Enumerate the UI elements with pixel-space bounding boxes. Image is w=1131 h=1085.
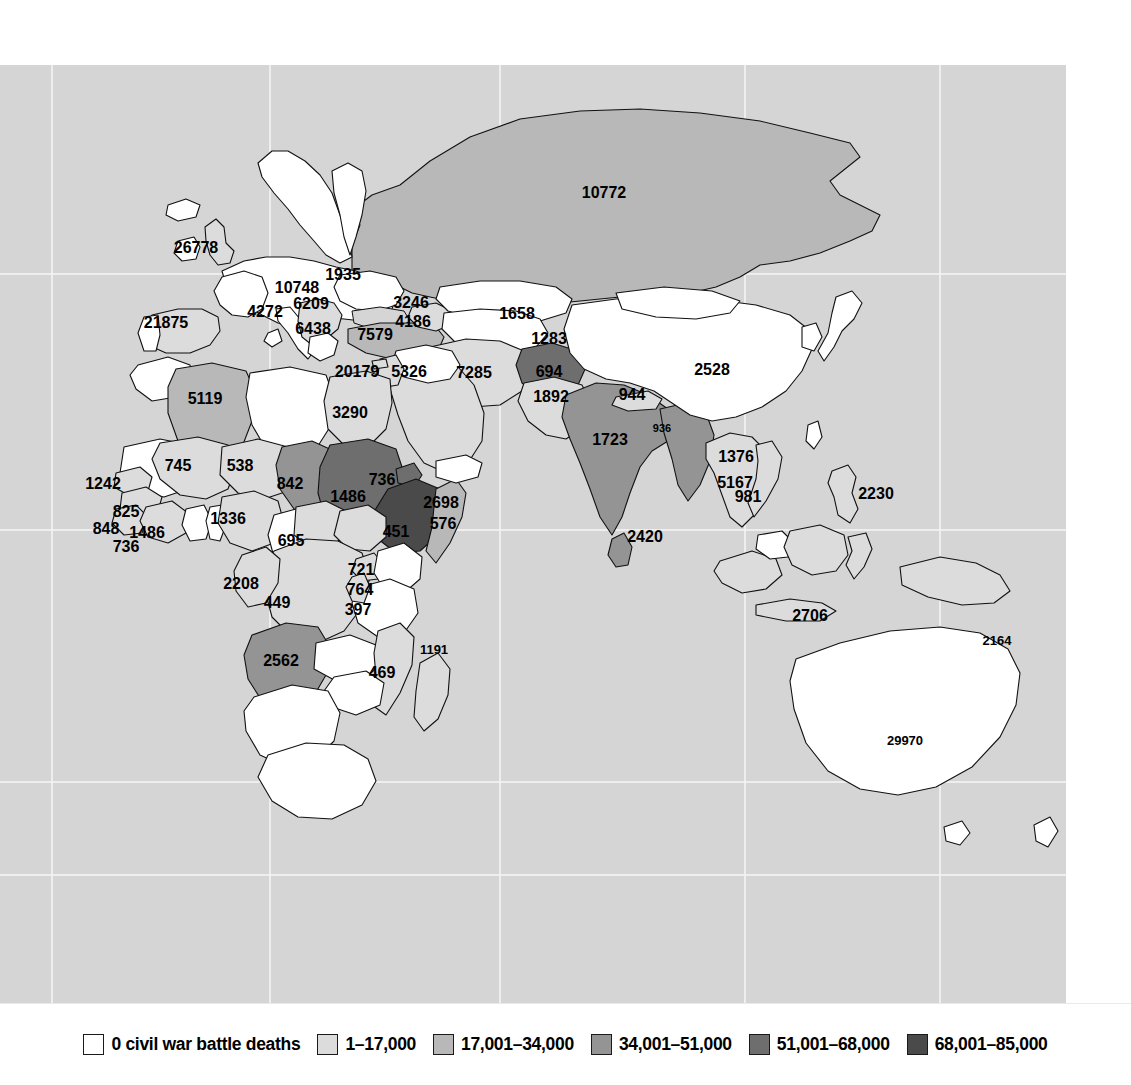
- map-value-label: 5326: [391, 363, 427, 380]
- map-value-label: 4186: [395, 313, 431, 330]
- map-value-label: 721: [348, 561, 375, 578]
- legend-item-5[interactable]: 68,001–85,000: [907, 1034, 1048, 1055]
- map-value-label: 2230: [858, 485, 894, 502]
- map-value-label: 1892: [533, 388, 569, 405]
- map-value-label: 2164: [983, 633, 1013, 648]
- map-value-label: 2420: [627, 528, 663, 545]
- map-value-label: 694: [536, 363, 563, 380]
- world-map-panel: 2677821875107481935620942726438757932464…: [0, 65, 1066, 1003]
- legend-swatch-3: [591, 1034, 612, 1055]
- map-value-label: 397: [345, 601, 372, 618]
- map-value-label: 1658: [499, 305, 535, 322]
- map-value-label: 1723: [592, 431, 628, 448]
- legend-swatch-0: [83, 1034, 104, 1055]
- map-value-label: 451: [383, 523, 410, 540]
- map-value-label: 7579: [357, 326, 393, 343]
- legend-label-3: 34,001–51,000: [619, 1034, 732, 1055]
- map-value-label: 26778: [174, 239, 219, 256]
- map-value-label: 21875: [144, 314, 189, 331]
- map-value-label: 4272: [247, 303, 283, 320]
- map-value-label: 695: [278, 532, 305, 549]
- map-value-label: 3290: [332, 404, 368, 421]
- figure-page: 2677821875107481935620942726438757932464…: [0, 0, 1131, 1085]
- map-value-label: 10748: [275, 279, 320, 296]
- legend-swatch-4: [749, 1034, 770, 1055]
- map-value-label: 1486: [330, 488, 366, 505]
- map-value-label: 6209: [293, 295, 329, 312]
- map-value-label: 10772: [582, 184, 627, 201]
- map-value-label: 7285: [456, 364, 492, 381]
- map-value-label: 469: [369, 664, 396, 681]
- legend-divider: [0, 1003, 1131, 1004]
- legend-label-2: 17,001–34,000: [461, 1034, 574, 1055]
- legend-swatch-2: [433, 1034, 454, 1055]
- map-value-label: 842: [277, 475, 304, 492]
- map-value-label: 6438: [295, 320, 331, 337]
- map-value-label: 825: [113, 503, 140, 520]
- map-value-label: 29970: [887, 733, 923, 748]
- legend-item-4[interactable]: 51,001–68,000: [749, 1034, 890, 1055]
- map-value-label: 1336: [210, 510, 246, 527]
- legend-item-2[interactable]: 17,001–34,000: [433, 1034, 574, 1055]
- map-value-label: 936: [653, 422, 671, 434]
- map-value-label: 1376: [718, 448, 754, 465]
- map-value-label: 2698: [423, 494, 459, 511]
- map-value-label: 1283: [531, 330, 567, 347]
- map-value-label: 538: [227, 457, 254, 474]
- legend-label-0: 0 civil war battle deaths: [111, 1034, 300, 1055]
- map-value-label: 1935: [325, 266, 361, 283]
- map-value-label: 2528: [694, 361, 730, 378]
- legend-item-3[interactable]: 34,001–51,000: [591, 1034, 732, 1055]
- map-value-label: 3246: [393, 294, 429, 311]
- map-value-label: 20179: [335, 363, 380, 380]
- map-value-label: 5119: [188, 390, 223, 407]
- map-value-label: 745: [165, 457, 192, 474]
- map-legend: 0 civil war battle deaths 1–17,000 17,00…: [0, 1003, 1131, 1085]
- legend-item-0[interactable]: 0 civil war battle deaths: [83, 1034, 300, 1055]
- map-value-label: 2208: [223, 575, 259, 592]
- map-value-label: 848: [93, 520, 120, 537]
- map-value-label: 1191: [420, 642, 448, 657]
- map-value-label: 736: [113, 538, 140, 555]
- map-value-label: 449: [264, 594, 291, 611]
- map-value-label: 1242: [85, 475, 121, 492]
- map-value-label: 944: [619, 386, 646, 403]
- map-value-label: 981: [735, 488, 762, 505]
- legend-swatch-1: [317, 1034, 338, 1055]
- legend-label-5: 68,001–85,000: [935, 1034, 1048, 1055]
- map-value-label: 2562: [263, 652, 299, 669]
- world-map-svg: 2677821875107481935620942726438757932464…: [0, 65, 1066, 1003]
- legend-label-1: 1–17,000: [345, 1034, 416, 1055]
- map-value-label: 736: [369, 471, 396, 488]
- map-value-label: 576: [430, 515, 457, 532]
- map-value-label: 764: [347, 581, 374, 598]
- legend-label-4: 51,001–68,000: [777, 1034, 890, 1055]
- legend-swatch-5: [907, 1034, 928, 1055]
- map-value-label: 2706: [792, 607, 828, 624]
- legend-item-1[interactable]: 1–17,000: [317, 1034, 416, 1055]
